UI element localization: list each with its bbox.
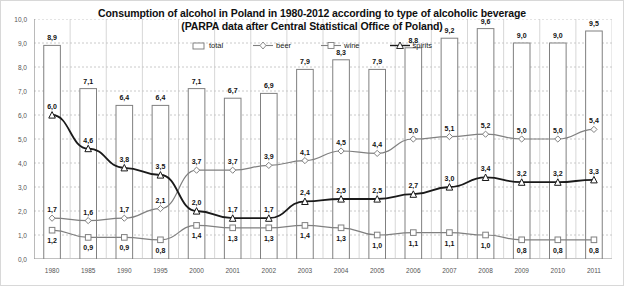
x-axis-tick: 2007 — [442, 267, 456, 274]
point-value-label: 5,1 — [445, 125, 455, 132]
y-axis-tick: 6,0 — [3, 112, 27, 119]
legend-label-beer: beer — [276, 41, 291, 50]
legend-label-spirits: spirits — [413, 41, 433, 50]
x-axis-tick: 2004 — [334, 267, 348, 274]
y-axis-tick: 3,0 — [3, 184, 27, 191]
x-axis-tick: 2000 — [189, 267, 203, 274]
series-line — [52, 225, 594, 239]
x-axis-tick: 1980 — [45, 267, 59, 274]
point-value-label: 5,4 — [589, 117, 599, 124]
chart-legend: total beer wine spirits — [1, 41, 623, 50]
point-value-label: 2,5 — [336, 187, 346, 194]
bar-value-label: 7,1 — [192, 78, 202, 85]
y-axis-tick: 5,0 — [3, 136, 27, 143]
x-axis-tick: 2011 — [587, 267, 601, 274]
legend-total-swatch-icon — [192, 42, 206, 50]
point-value-label: 4,1 — [300, 149, 310, 156]
point-value-label: 0,8 — [517, 247, 527, 254]
point-value-label: 1,7 — [264, 206, 274, 213]
x-axis-tick: 1995 — [153, 267, 167, 274]
bar-value-label: 6,4 — [119, 94, 129, 101]
y-axis-tick: 4,0 — [3, 160, 27, 167]
point-value-label: 4,6 — [83, 137, 93, 144]
point-value-label: 1,3 — [228, 235, 238, 242]
point-value-label: 3,8 — [119, 156, 129, 163]
point-value-label: 5,2 — [481, 122, 491, 129]
y-axis-tick: 10,0 — [3, 16, 27, 23]
point-value-label: 1,6 — [83, 209, 93, 216]
alcohol-consumption-chart: Consumption of alcohol in Poland in 1980… — [0, 0, 624, 286]
point-value-label: 1,0 — [481, 242, 491, 249]
point-value-label: 0,8 — [589, 247, 599, 254]
point-value-label: 0,8 — [553, 247, 563, 254]
bar-value-label: 6,4 — [156, 94, 166, 101]
point-value-label: 2,0 — [192, 199, 202, 206]
x-axis-tick: 1990 — [117, 267, 131, 274]
y-axis-tick: 7,0 — [3, 88, 27, 95]
legend-spirits-marker-icon — [390, 41, 410, 50]
legend-item-spirits[interactable]: spirits — [390, 41, 433, 50]
legend-beer-marker-icon — [253, 41, 273, 50]
plot-area — [34, 19, 612, 259]
y-axis-tick: 8,0 — [3, 64, 27, 71]
point-value-label: 2,7 — [408, 182, 418, 189]
point-value-label: 1,1 — [408, 240, 418, 247]
point-value-label: 1,4 — [192, 232, 202, 239]
point-value-label: 1,4 — [300, 232, 310, 239]
point-value-label: 5,0 — [408, 127, 418, 134]
point-value-label: 1,7 — [47, 206, 57, 213]
x-axis-tick: 2005 — [370, 267, 384, 274]
point-value-label: 3,2 — [517, 170, 527, 177]
legend-label-total: total — [209, 41, 223, 50]
legend-label-wine: wine — [344, 41, 359, 50]
point-value-label: 5,0 — [517, 127, 527, 134]
legend-item-beer[interactable]: beer — [253, 41, 291, 50]
legend-wine-marker-icon — [321, 41, 341, 50]
bar-value-label: 7,9 — [372, 58, 382, 65]
x-axis-tick: 1985 — [81, 267, 95, 274]
x-axis-tick: 2006 — [406, 267, 420, 274]
y-axis-tick: 2,0 — [3, 208, 27, 215]
legend-item-total[interactable]: total — [192, 41, 223, 50]
y-axis-tick: 0,0 — [3, 256, 27, 263]
x-axis-tick: 2002 — [262, 267, 276, 274]
point-value-label: 1,0 — [372, 242, 382, 249]
point-value-label: 3,4 — [481, 165, 491, 172]
bar-value-label: 7,9 — [300, 58, 310, 65]
bar-value-label: 9,5 — [589, 20, 599, 27]
point-value-label: 3,9 — [264, 153, 274, 160]
point-value-label: 2,1 — [156, 197, 166, 204]
bar-value-label: 9,6 — [481, 18, 491, 25]
point-value-label: 1,2 — [47, 237, 57, 244]
point-value-label: 3,0 — [445, 175, 455, 182]
x-axis-tick: 2009 — [514, 267, 528, 274]
point-value-label: 2,5 — [372, 187, 382, 194]
point-value-label: 3,2 — [553, 170, 563, 177]
x-axis-tick: 2008 — [478, 267, 492, 274]
point-value-label: 0,9 — [83, 244, 93, 251]
bar-value-label: 9,2 — [445, 27, 455, 34]
point-value-label: 1,3 — [336, 235, 346, 242]
bar-value-label: 9,0 — [517, 32, 527, 39]
point-value-label: 3,3 — [589, 168, 599, 175]
point-value-label: 3,7 — [192, 158, 202, 165]
point-value-label: 1,7 — [119, 206, 129, 213]
point-value-label: 1,7 — [228, 206, 238, 213]
legend-item-wine[interactable]: wine — [321, 41, 359, 50]
point-value-label: 2,4 — [300, 189, 310, 196]
series-line — [52, 129, 594, 220]
point-value-label: 6,0 — [47, 103, 57, 110]
point-value-label: 4,4 — [372, 141, 382, 148]
point-value-label: 4,5 — [336, 139, 346, 146]
x-axis-tick: 2010 — [551, 267, 565, 274]
series-line — [52, 115, 594, 218]
y-axis-tick: 1,0 — [3, 232, 27, 239]
point-value-label: 0,8 — [156, 247, 166, 254]
x-axis-tick: 2001 — [225, 267, 239, 274]
point-value-label: 3,7 — [228, 158, 238, 165]
point-value-label: 0,9 — [119, 244, 129, 251]
point-value-label: 5,0 — [553, 127, 563, 134]
point-value-label: 3,5 — [156, 163, 166, 170]
point-value-label: 1,3 — [264, 235, 274, 242]
x-axis-tick: 2003 — [298, 267, 312, 274]
